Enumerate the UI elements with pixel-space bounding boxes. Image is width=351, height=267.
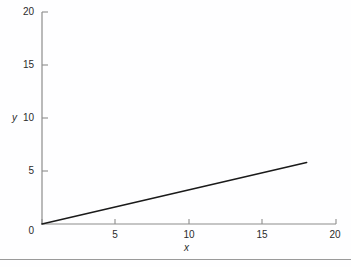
x-tick-label-10: 10 xyxy=(179,230,199,240)
page-bottom-rule xyxy=(0,259,351,260)
y-tick-label-20: 20 xyxy=(12,7,34,17)
y-tick-label-5: 5 xyxy=(12,166,34,176)
plot-area xyxy=(0,0,351,267)
chart-figure: 20 15 10 5 0 5 10 15 20 y x xyxy=(0,0,351,267)
y-tick-marks xyxy=(42,12,48,171)
data-line-series xyxy=(42,163,307,224)
x-tick-label-20: 20 xyxy=(325,230,345,240)
x-axis-title: x xyxy=(184,243,189,253)
x-tick-label-15: 15 xyxy=(252,230,272,240)
x-tick-marks xyxy=(42,219,336,224)
y-tick-label-15: 15 xyxy=(12,60,34,70)
y-axis-title: y xyxy=(12,113,17,123)
x-tick-label-5: 5 xyxy=(105,230,125,240)
y-tick-label-0: 0 xyxy=(12,226,34,236)
